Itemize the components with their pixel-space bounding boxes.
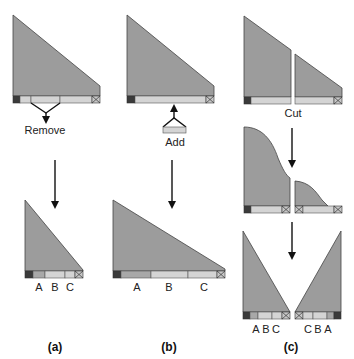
triangle-left-piece bbox=[244, 16, 291, 97]
segment-light bbox=[251, 97, 291, 104]
add-label: Add bbox=[165, 136, 185, 148]
segment-b bbox=[258, 312, 272, 319]
figure-canvas: Remove A B C (a) bbox=[0, 0, 354, 359]
segment-b bbox=[151, 271, 188, 278]
bracket-lines bbox=[163, 118, 186, 127]
segment-label-c: C bbox=[304, 323, 312, 335]
segment-dark bbox=[13, 96, 20, 103]
segment-a bbox=[121, 271, 151, 278]
segment-label-a: A bbox=[133, 281, 141, 293]
segment-dark bbox=[25, 271, 33, 278]
panel-a: Remove A B C (a) bbox=[13, 15, 100, 354]
panel-b: Add A B C (b) bbox=[113, 15, 225, 354]
triangle-left bbox=[243, 231, 290, 312]
triangle-shape bbox=[113, 200, 225, 271]
segment-a bbox=[250, 312, 258, 319]
triangle-shape bbox=[13, 15, 100, 96]
panel-b-bottom-construct: A B C bbox=[113, 200, 225, 293]
caption-a: (a) bbox=[48, 340, 63, 354]
panel-a-top-construct: Remove bbox=[13, 15, 100, 136]
segment-label-b: B bbox=[262, 323, 269, 335]
segment-light bbox=[135, 96, 206, 103]
segment-label-b: B bbox=[165, 281, 172, 293]
panel-a-bottom-construct: A B C bbox=[25, 200, 83, 293]
triangle-right-mirrored bbox=[295, 231, 341, 312]
segment-c bbox=[188, 271, 217, 278]
panel-c: Cut bbox=[243, 16, 342, 354]
caption-c: (c) bbox=[284, 340, 299, 354]
segment-removed bbox=[31, 96, 60, 103]
caption-b: (b) bbox=[161, 340, 176, 354]
segment-label-a: A bbox=[324, 323, 332, 335]
segment-b bbox=[313, 312, 327, 319]
segment-label-b: B bbox=[314, 323, 321, 335]
segment-light bbox=[295, 97, 334, 104]
curved-left-piece bbox=[244, 127, 290, 206]
segment-c bbox=[65, 271, 75, 278]
segment-light bbox=[251, 206, 282, 213]
segment-a bbox=[327, 312, 334, 319]
triangle-shape bbox=[127, 15, 214, 96]
triangle-shape bbox=[25, 200, 83, 271]
remove-label: Remove bbox=[25, 124, 66, 136]
triangle-right-piece bbox=[295, 54, 342, 97]
segment-dark bbox=[244, 206, 251, 213]
curved-right-piece bbox=[295, 181, 328, 206]
segment-label-c: C bbox=[272, 323, 280, 335]
segment-label-c: C bbox=[66, 281, 74, 293]
segment-b bbox=[45, 271, 65, 278]
segment-label-b: B bbox=[51, 281, 58, 293]
segment-dark bbox=[334, 312, 341, 319]
segment-label-c: C bbox=[200, 281, 208, 293]
segment-light bbox=[20, 96, 31, 103]
cut-label: Cut bbox=[284, 107, 301, 119]
panel-c-cut-construct: Cut bbox=[244, 16, 342, 119]
bracket-lines bbox=[31, 103, 60, 113]
segment-c bbox=[272, 312, 282, 319]
segment-light bbox=[303, 206, 334, 213]
segment-c bbox=[303, 312, 313, 319]
segment-dark bbox=[244, 97, 251, 104]
segment-label-a: A bbox=[35, 281, 43, 293]
segment-a bbox=[33, 271, 45, 278]
segment-label-a: A bbox=[252, 323, 260, 335]
segment-dark bbox=[127, 96, 135, 103]
segment-light bbox=[60, 96, 92, 103]
panel-c-middle-construct bbox=[244, 127, 342, 213]
segment-dark bbox=[243, 312, 250, 319]
segment-dark bbox=[113, 271, 121, 278]
segment-added bbox=[163, 127, 186, 133]
panel-b-top-construct: Add bbox=[127, 15, 214, 148]
